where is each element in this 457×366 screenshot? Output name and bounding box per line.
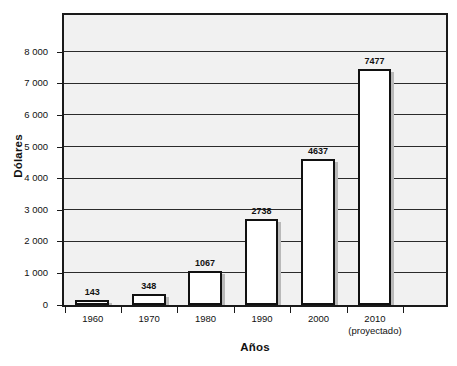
bar[interactable] [188,271,222,305]
x-axis-tick-label-year: 1990 [251,313,272,324]
y-axis-tick-label: 1 000 [0,268,48,278]
x-axis-tick-label-year: 1980 [195,313,216,324]
bar-value-label: 1067 [169,258,241,268]
y-axis-tick-label: 4 000 [0,173,48,183]
plot-area: 1433481067273846377477 [62,13,448,307]
y-axis-tick-label: 0 [0,300,48,310]
x-axis-tick-label-year: 2000 [308,313,329,324]
y-axis-tick-label: 5 000 [0,142,48,152]
y-axis-tick-label: 2 000 [0,236,48,246]
bar[interactable] [75,300,109,305]
gridline [64,51,446,52]
bar-chart-figure: Dólares 01 0002 0003 0004 0005 0006 0007… [0,0,457,366]
bar[interactable] [301,159,335,305]
y-axis-tick-label: 6 000 [0,110,48,120]
y-axis-tick-label: 3 000 [0,205,48,215]
bar-value-label: 348 [112,281,184,291]
bar[interactable] [132,294,166,305]
x-axis-title: Años [62,341,448,353]
bar-value-label: 4637 [282,146,354,156]
bar-value-label: 7477 [338,56,410,66]
y-axis-tick-label-group: 01 0002 0003 0004 0005 0006 0007 0008 00… [0,0,56,366]
x-axis-tick-label-note: (proyectado) [335,325,415,337]
y-axis-tick-label: 7 000 [0,78,48,88]
x-axis-tick-label-year: 2010 [364,313,385,324]
x-axis-tick-label-year: 1960 [82,313,103,324]
bar[interactable] [358,69,392,305]
x-axis-tick-label-year: 1970 [139,313,160,324]
plot-inner: 1433481067273846377477 [64,15,446,305]
x-axis-tick-label: 2010(proyectado) [335,313,415,337]
bar[interactable] [245,219,279,305]
bar-value-label: 2738 [225,206,297,216]
y-axis-tick-label: 8 000 [0,47,48,57]
